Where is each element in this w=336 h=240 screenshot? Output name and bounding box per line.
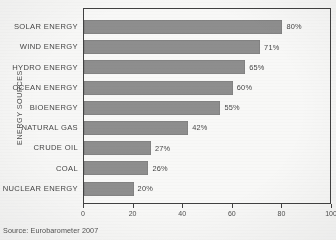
category-label: COAL (0, 164, 78, 173)
category-label: CRUDE OIL (0, 143, 78, 152)
bar (84, 81, 233, 95)
chart-figure: ENERGY SOURCES SOLAR ENERGYWIND ENERGYHY… (0, 0, 336, 240)
bar (84, 101, 220, 115)
x-axis-tick (331, 204, 332, 208)
value-label: 20% (138, 184, 153, 193)
source-note: Source: Eurobarometer 2007 (3, 226, 98, 235)
x-axis-tick-label: 40 (178, 210, 186, 217)
x-axis-tick-label: 0 (81, 210, 85, 217)
bar (84, 121, 188, 135)
x-axis-tick (281, 204, 282, 208)
bar (84, 20, 282, 34)
value-label: 60% (237, 83, 252, 92)
bar (84, 40, 260, 54)
bar (84, 182, 134, 196)
x-axis-tick-label: 60 (228, 210, 236, 217)
value-label: 26% (152, 164, 167, 173)
x-axis-tick-label: 20 (129, 210, 137, 217)
category-label: HYDRO ENERGY (0, 63, 78, 72)
x-axis-tick (133, 204, 134, 208)
x-axis-tick-label: 80 (277, 210, 285, 217)
category-label: BIOENERGY (0, 103, 78, 112)
value-label: 80% (286, 22, 301, 31)
category-label: NATURAL GAS (0, 123, 78, 132)
value-label: 27% (155, 144, 170, 153)
value-label: 65% (249, 63, 264, 72)
bar (84, 161, 148, 175)
value-label: 42% (192, 123, 207, 132)
category-label: WIND ENERGY (0, 42, 78, 51)
x-axis-tick (83, 204, 84, 208)
category-label: SOLAR ENERGY (0, 22, 78, 31)
x-axis-tick-label: 100 (325, 210, 336, 217)
plot-area (83, 8, 331, 204)
category-label: NUCLEAR ENERGY (0, 184, 78, 193)
bar (84, 60, 245, 74)
x-axis-tick (232, 204, 233, 208)
value-label: 55% (224, 103, 239, 112)
x-axis-tick (182, 204, 183, 208)
bar (84, 141, 151, 155)
category-label: OCEAN ENERGY (0, 83, 78, 92)
value-label: 71% (264, 43, 279, 52)
